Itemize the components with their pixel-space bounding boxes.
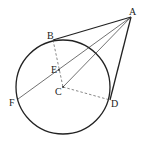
label-c: C <box>55 86 62 97</box>
label-f: F <box>9 97 15 108</box>
point-c-dot <box>62 86 64 88</box>
radius-cd <box>63 87 110 100</box>
label-b: B <box>47 30 54 41</box>
label-d: D <box>111 98 118 109</box>
tangent-ab <box>53 17 131 40</box>
point-e-dot <box>58 69 60 71</box>
tangent-ad <box>110 17 131 100</box>
label-e: E <box>51 64 57 75</box>
label-a: A <box>129 6 137 17</box>
geometry-figure: A B E C F D <box>0 0 142 141</box>
secant-af <box>18 17 131 99</box>
